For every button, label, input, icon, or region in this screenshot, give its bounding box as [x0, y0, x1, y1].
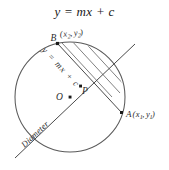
b-comma: ,: [70, 28, 73, 38]
point-a-marker: [120, 111, 123, 114]
chord-equation-label: y = mx + c: [39, 44, 81, 89]
point-a-label: A: [125, 109, 132, 119]
point-o-label: O: [56, 92, 63, 102]
a-comma: ,: [142, 109, 144, 119]
point-o-marker: [69, 96, 72, 99]
diagram-canvas: B ( x 2 , y 2 ) A ( x 1 , y 1 ) P O y = …: [0, 0, 169, 170]
point-p-label: P: [81, 86, 88, 96]
point-a-coords-label: ( x 1 , y 1 ): [133, 109, 156, 120]
a-close-paren: ): [151, 109, 155, 119]
point-b-marker: [56, 42, 59, 45]
geometry-figure: y = mx + c: [0, 0, 169, 170]
diameter-label: Diameter: [18, 118, 51, 150]
point-b-coords-label: ( x 2 , y 2 ): [59, 27, 83, 40]
point-b-label: B: [51, 33, 57, 43]
